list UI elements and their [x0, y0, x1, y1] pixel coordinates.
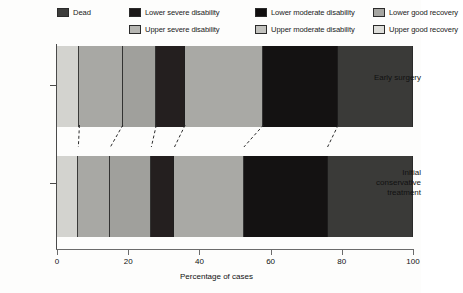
legend-label: Upper severe disability: [145, 25, 220, 35]
bar-initial-conservative-treatment: [57, 156, 413, 237]
x-tick-100: [413, 250, 414, 255]
y-category-label-0: Early surgery: [369, 73, 421, 83]
legend-label: Upper moderate disability: [271, 25, 355, 35]
x-tick-40: [199, 250, 200, 255]
bar-segment-upper-moderate-disability: [185, 46, 263, 127]
legend-swatch-icon: [373, 25, 385, 34]
bar-segment-upper-moderate-disability: [174, 156, 243, 237]
chart-legend: DeadLower severe disabilityUpper severe …: [57, 4, 413, 41]
bar-segment-upper-severe-disability: [123, 46, 156, 127]
bar-segment-lower-good-recovery: [263, 46, 338, 127]
legend-item-dead[interactable]: Dead: [57, 4, 129, 21]
legend-swatch-icon: [129, 25, 141, 34]
legend-item-upper-moderate-disability[interactable]: Upper moderate disability: [255, 21, 373, 38]
legend-item-upper-severe-disability[interactable]: Upper severe disability: [129, 21, 255, 38]
bar-early-surgery: [57, 46, 413, 127]
x-tick-20: [128, 250, 129, 255]
x-axis-title-text: Percentage of cases: [180, 272, 253, 281]
x-tick-label-80: 80: [337, 257, 346, 266]
legend-label: Lower severe disability: [145, 8, 220, 18]
x-tick-60: [271, 250, 272, 255]
bar-segment-lower-severe-disability: [79, 46, 122, 127]
bar-segment-upper-severe-disability: [110, 156, 151, 237]
x-axis-title: Percentage of cases: [0, 272, 421, 281]
legend-label: Lower good recovery: [389, 8, 458, 18]
legend-label: Upper good recovery: [389, 25, 458, 35]
bar-segment-dead: [57, 156, 78, 237]
y-category-label-1: Initial conservative treatment: [369, 168, 421, 198]
legend-swatch-icon: [255, 25, 267, 34]
x-tick-80: [342, 250, 343, 255]
legend-swatch-icon: [373, 8, 385, 17]
x-tick-label-100: 100: [406, 257, 419, 266]
legend-item-upper-good-recovery[interactable]: Upper good recovery: [373, 21, 463, 38]
legend-item-lower-severe-disability[interactable]: Lower severe disability: [129, 4, 255, 21]
bar-segment-upper-good-recovery: [338, 46, 413, 127]
bar-segment-dead: [57, 46, 79, 127]
x-tick-label-40: 40: [195, 257, 204, 266]
bar-segment-lower-severe-disability: [78, 156, 110, 237]
legend-swatch-icon: [57, 8, 69, 17]
legend-item-lower-good-recovery[interactable]: Lower good recovery: [373, 4, 463, 21]
legend-swatch-icon: [129, 8, 141, 17]
legend-label: Lower moderate disability: [271, 8, 355, 18]
y-tick-1: [50, 183, 57, 184]
x-tick-0: [57, 250, 58, 255]
x-tick-label-20: 20: [124, 257, 133, 266]
legend-label: Dead: [73, 8, 91, 18]
x-axis-line: [56, 249, 414, 250]
bar-segment-lower-moderate-disability: [151, 156, 174, 237]
x-tick-label-60: 60: [266, 257, 275, 266]
plot-area: [57, 44, 413, 248]
bar-segment-lower-good-recovery: [244, 156, 328, 237]
bar-segment-lower-moderate-disability: [156, 46, 185, 127]
legend-item-lower-moderate-disability[interactable]: Lower moderate disability: [255, 4, 373, 21]
y-tick-0: [50, 85, 57, 86]
legend-swatch-icon: [255, 8, 267, 17]
x-tick-label-0: 0: [55, 257, 59, 266]
